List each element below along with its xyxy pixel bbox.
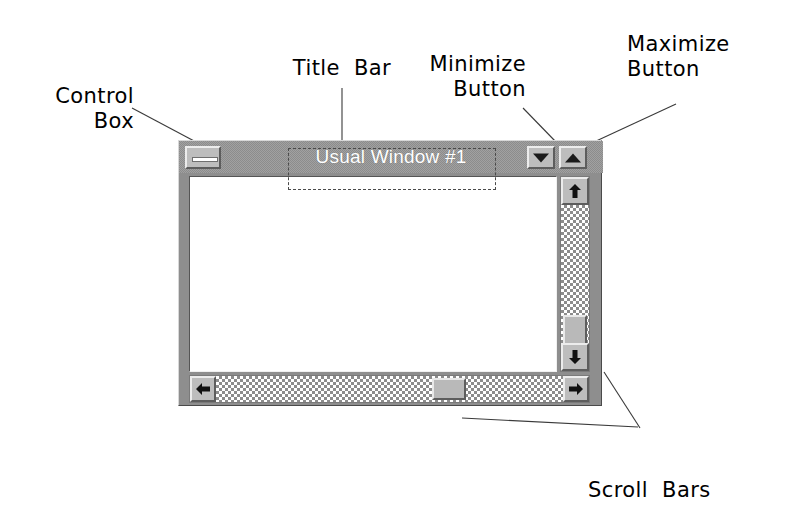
annotation-scroll-bars: Scroll Bars — [588, 478, 788, 503]
arrow-left-icon — [195, 381, 211, 397]
vertical-scroll-track[interactable] — [561, 205, 589, 343]
annotation-control-box: Control Box — [0, 84, 134, 134]
scroll-left-button[interactable] — [190, 376, 216, 402]
maximize-button[interactable] — [559, 146, 587, 169]
triangle-up-icon — [565, 153, 581, 162]
arrow-right-icon — [568, 381, 584, 397]
horizontal-scroll-thumb[interactable] — [432, 378, 466, 400]
annotation-minimize-button: Minimize Button — [390, 52, 526, 102]
leader-maximize-button — [594, 104, 676, 142]
diagram-canvas: Control Box Title Bar Minimize Button Ma… — [0, 0, 790, 528]
scroll-down-button[interactable] — [561, 343, 589, 371]
caption-highlight-box — [288, 148, 496, 190]
vertical-scrollbar[interactable] — [560, 176, 590, 372]
minimize-button[interactable] — [527, 146, 555, 169]
vertical-scroll-thumb[interactable] — [563, 315, 587, 345]
scroll-right-button[interactable] — [563, 376, 589, 402]
client-area — [189, 176, 557, 372]
annotation-maximize-button: Maximize Button — [627, 32, 787, 82]
triangle-down-icon — [533, 153, 549, 162]
arrow-down-icon — [567, 349, 583, 365]
arrow-up-icon — [567, 183, 583, 199]
horizontal-scrollbar[interactable] — [189, 375, 590, 403]
horizontal-scroll-track[interactable] — [216, 376, 563, 402]
control-box-button[interactable] — [185, 146, 221, 169]
leader-scrollbars-vertical — [604, 372, 640, 428]
leader-control-box — [132, 108, 196, 142]
scroll-up-button[interactable] — [561, 177, 589, 205]
leader-minimize-button — [523, 108, 556, 142]
minimize-bar-icon — [192, 157, 218, 162]
leader-scrollbars-horizontal — [462, 418, 638, 427]
